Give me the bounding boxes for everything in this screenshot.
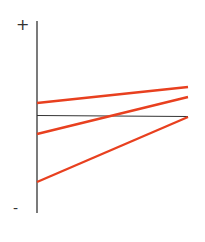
- line-lower: [37, 117, 188, 182]
- minus-label: -: [13, 200, 18, 216]
- diagram: + -: [0, 0, 205, 242]
- line-upper: [37, 87, 188, 103]
- plus-label: +: [16, 15, 29, 34]
